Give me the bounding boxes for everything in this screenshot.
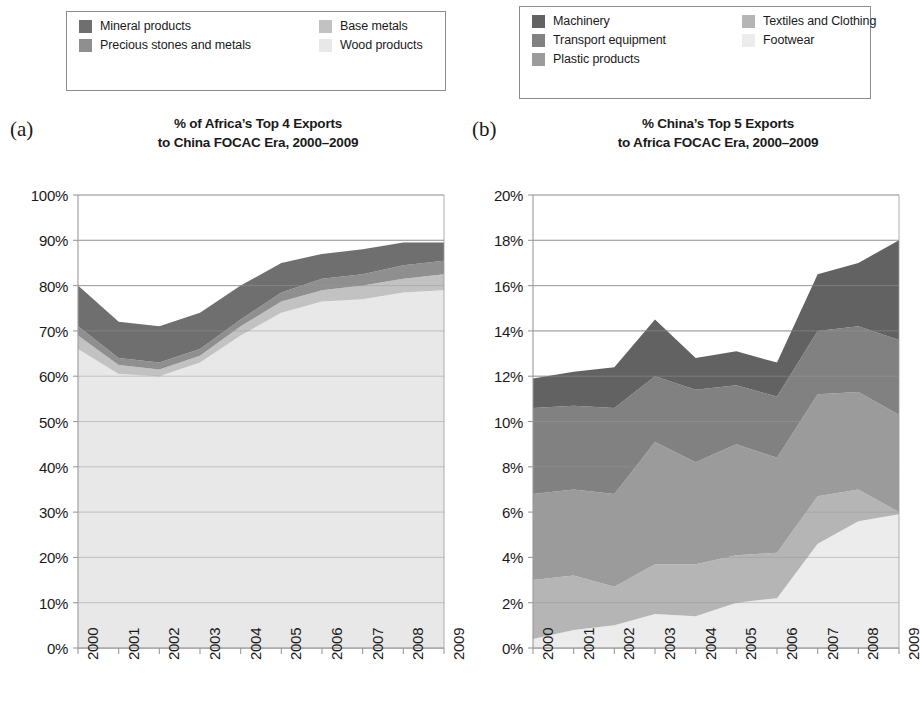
x-tick-label: 2001 bbox=[580, 628, 597, 660]
y-tick-label: 14% bbox=[460, 322, 523, 339]
legend-label-machinery: Machinery bbox=[553, 14, 610, 28]
y-tick-label: 40% bbox=[0, 458, 68, 475]
legend-swatch-base-metals bbox=[319, 20, 332, 33]
legend-swatch-precious-stones-and-metals bbox=[79, 39, 92, 52]
legend-swatch-wood-products bbox=[319, 39, 332, 52]
y-tick-label: 0% bbox=[460, 640, 523, 657]
legend-item-precious-stones-and-metals: Precious stones and metals bbox=[79, 38, 309, 52]
x-tick-label: 2005 bbox=[287, 628, 304, 660]
figure-root: Mineral products Base metals Precious st… bbox=[0, 0, 920, 719]
y-tick-label: 90% bbox=[0, 232, 68, 249]
legend-chart-b: Machinery Textiles and Clothing Transpor… bbox=[519, 6, 871, 99]
legend-swatch-textiles-and-clothing bbox=[742, 15, 755, 28]
y-tick-label: 6% bbox=[460, 504, 523, 521]
x-tick-label: 2006 bbox=[783, 628, 800, 660]
y-tick-label: 70% bbox=[0, 322, 68, 339]
x-tick-label: 2001 bbox=[125, 628, 142, 660]
legend-item-transport-equipment: Transport equipment bbox=[532, 33, 732, 47]
y-tick-label: 16% bbox=[460, 277, 523, 294]
y-tick-label: 60% bbox=[0, 368, 68, 385]
panel-chart-a: (a) % of Africa’s Top 4 Exports to China… bbox=[0, 105, 460, 719]
legend-item-wood-products: Wood products bbox=[319, 38, 435, 52]
plot-area-chart-a: 0%10%20%30%40%50%60%70%80%90%100%2000200… bbox=[0, 105, 460, 719]
y-tick-label: 18% bbox=[460, 232, 523, 249]
x-tick-label: 2005 bbox=[742, 628, 759, 660]
x-tick-label: 2003 bbox=[206, 628, 223, 660]
y-tick-label: 4% bbox=[460, 549, 523, 566]
legend-b-grid: Machinery Textiles and Clothing Transpor… bbox=[532, 14, 860, 66]
legend-label-transport-equipment: Transport equipment bbox=[553, 33, 666, 47]
x-tick-label: 2006 bbox=[328, 628, 345, 660]
y-tick-label: 10% bbox=[460, 413, 523, 430]
legend-swatch-machinery bbox=[532, 15, 545, 28]
x-tick-label: 2000 bbox=[539, 628, 556, 660]
legend-label-footwear: Footwear bbox=[763, 33, 814, 47]
y-tick-label: 80% bbox=[0, 277, 68, 294]
panel-chart-b: (b) % China’s Top 5 Exports to Africa FO… bbox=[460, 105, 920, 719]
legend-label-mineral-products: Mineral products bbox=[100, 19, 191, 33]
legend-item-machinery: Machinery bbox=[532, 14, 732, 28]
x-tick-label: 2009 bbox=[905, 628, 920, 660]
x-tick-label: 2002 bbox=[620, 628, 637, 660]
legend-item-textiles-and-clothing: Textiles and Clothing bbox=[742, 14, 876, 28]
legend-swatch-footwear bbox=[742, 34, 755, 47]
y-tick-label: 50% bbox=[0, 413, 68, 430]
legend-label-textiles-and-clothing: Textiles and Clothing bbox=[763, 14, 876, 28]
legend-swatch-plastic-products bbox=[532, 53, 545, 66]
x-tick-label: 2002 bbox=[165, 628, 182, 660]
x-tick-label: 2008 bbox=[409, 628, 426, 660]
y-tick-label: 2% bbox=[460, 594, 523, 611]
legend-swatch-mineral-products bbox=[79, 20, 92, 33]
x-tick-label: 2004 bbox=[247, 628, 264, 660]
x-tick-label: 2003 bbox=[661, 628, 678, 660]
y-tick-label: 10% bbox=[0, 594, 68, 611]
y-tick-label: 8% bbox=[460, 458, 523, 475]
legend-item-plastic-products: Plastic products bbox=[532, 52, 732, 66]
y-tick-label: 0% bbox=[0, 640, 68, 657]
legend-label-plastic-products: Plastic products bbox=[553, 52, 640, 66]
x-tick-label: 2004 bbox=[702, 628, 719, 660]
legend-a-grid: Mineral products Base metals Precious st… bbox=[79, 19, 435, 52]
plot-b-svg bbox=[460, 105, 920, 719]
legend-label-base-metals: Base metals bbox=[340, 19, 408, 33]
legend-label-precious-stones-and-metals: Precious stones and metals bbox=[100, 38, 251, 52]
x-tick-label: 2008 bbox=[864, 628, 881, 660]
y-tick-label: 12% bbox=[460, 368, 523, 385]
legend-item-base-metals: Base metals bbox=[319, 19, 435, 33]
x-tick-label: 2007 bbox=[369, 628, 386, 660]
y-tick-label: 30% bbox=[0, 504, 68, 521]
x-tick-label: 2000 bbox=[84, 628, 101, 660]
legend-item-footwear: Footwear bbox=[742, 33, 876, 47]
legend-swatch-transport-equipment bbox=[532, 34, 545, 47]
plot-a-svg bbox=[0, 105, 460, 719]
plot-area-chart-b: 0%2%4%6%8%10%12%14%16%18%20%200020012002… bbox=[460, 105, 920, 719]
y-tick-label: 100% bbox=[0, 187, 68, 204]
y-tick-label: 20% bbox=[0, 549, 68, 566]
y-tick-label: 20% bbox=[460, 187, 523, 204]
legend-item-mineral-products: Mineral products bbox=[79, 19, 309, 33]
x-tick-label: 2007 bbox=[824, 628, 841, 660]
legend-chart-a: Mineral products Base metals Precious st… bbox=[66, 11, 446, 91]
legend-label-wood-products: Wood products bbox=[340, 38, 423, 52]
